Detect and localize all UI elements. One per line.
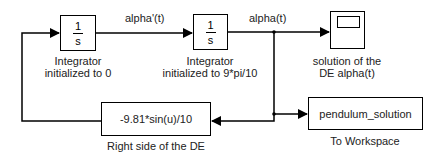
integrator-1-label: Integrator initialized to 0 <box>38 55 118 79</box>
scope-screen-icon <box>337 16 360 28</box>
signal-label-alpha-dot: alpha'(t) <box>125 12 164 24</box>
fcn-block[interactable]: -9.81*sin(u)/10 <box>101 102 211 136</box>
integrator-block-2[interactable]: 1 s <box>193 14 228 50</box>
fcn-expression: -9.81*sin(u)/10 <box>120 113 192 125</box>
to-workspace-block[interactable]: pendulum_solution <box>308 97 423 130</box>
junction-dot <box>272 30 276 34</box>
transfer-function: 1 s <box>206 19 216 46</box>
scope-block[interactable] <box>330 11 365 49</box>
workspace-variable: pendulum_solution <box>319 108 411 120</box>
to-workspace-label: To Workspace <box>315 135 415 147</box>
signal-label-alpha: alpha(t) <box>249 12 286 24</box>
junction-dot <box>272 112 276 116</box>
transfer-function: 1 s <box>73 20 83 47</box>
integrator-block-1[interactable]: 1 s <box>60 15 96 51</box>
fcn-label: Right side of the DE <box>96 140 216 152</box>
scope-label: solution of the DE alpha(t) <box>297 55 397 79</box>
integrator-2-label: Integrator initialized to 9*pi/10 <box>155 55 265 79</box>
